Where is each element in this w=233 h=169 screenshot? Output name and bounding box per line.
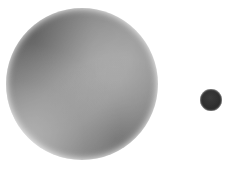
small-sphere-halftone-texture xyxy=(200,89,222,111)
small-sphere xyxy=(200,89,222,111)
large-sphere xyxy=(6,8,158,160)
figure-canvas xyxy=(0,0,233,169)
large-sphere-soft-edge xyxy=(4,6,160,162)
